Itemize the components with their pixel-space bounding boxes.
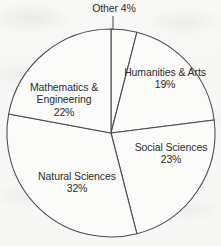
slice-label-humanities-arts-value: 19%	[113, 78, 217, 90]
slice-label-mathematics-engineering: Mathematics & Engineering 22%	[17, 81, 111, 118]
slice-label-social-sciences-name: Social Sciences	[124, 141, 218, 153]
slice-label-natural-sciences-value: 32%	[25, 182, 129, 194]
slice-label-natural-sciences-name: Natural Sciences	[25, 170, 129, 182]
slice-label-mathematics-engineering-name2: Engineering	[17, 93, 111, 105]
slice-label-natural-sciences: Natural Sciences 32%	[25, 170, 129, 195]
slice-label-other: Other 4%	[64, 2, 164, 14]
pie-chart-figure: Other 4% Humanities & Arts 19% Social Sc…	[0, 0, 221, 246]
slice-label-mathematics-engineering-value: 22%	[17, 106, 111, 118]
slice-label-humanities-arts-name: Humanities & Arts	[113, 66, 217, 78]
slice-label-social-sciences-value: 23%	[124, 153, 218, 165]
slice-label-social-sciences: Social Sciences 23%	[124, 141, 218, 166]
slice-label-mathematics-engineering-name: Mathematics &	[17, 81, 111, 93]
pie-chart-graphic	[0, 0, 221, 246]
slice-label-other-text: Other 4%	[64, 2, 164, 14]
slice-label-humanities-arts: Humanities & Arts 19%	[113, 66, 217, 91]
